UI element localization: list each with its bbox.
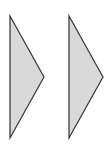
- diagram-canvas: [0, 0, 104, 152]
- left-triangle-icon: [10, 16, 44, 138]
- right-triangle-icon: [69, 16, 103, 138]
